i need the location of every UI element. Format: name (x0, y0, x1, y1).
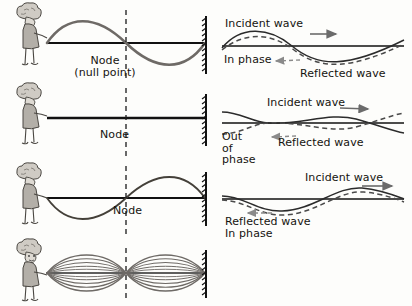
reflected-direction-arrow (276, 60, 300, 61)
node-label-panel-1: Node (null point) (63, 55, 147, 78)
phase-label-panel-2: Out of phase (222, 131, 256, 166)
wall (202, 16, 206, 74)
standing-wave-diagram: Node (null point) Incident wave In phase… (0, 0, 412, 306)
incident-wave-label-panel-1: Incident wave (225, 18, 303, 30)
panel-3-right-group (222, 186, 404, 215)
reflected-wave-label-panel-1: Reflected wave (300, 68, 386, 80)
wall (202, 94, 206, 146)
incident-wave-label-panel-3: Incident wave (305, 172, 383, 184)
incident-wave-label-panel-2: Incident wave (267, 97, 345, 109)
node-label-line-1: Node (63, 55, 147, 67)
person-figure (17, 163, 47, 224)
reflected-wave-label-panel-3: Reflected wave (225, 216, 311, 228)
person-figure (17, 83, 47, 144)
diagram-canvas (0, 0, 412, 306)
node-label-panel-2: Node (100, 129, 129, 141)
phase-label-panel-3: In phase (225, 228, 273, 240)
node-label-panel-3: Node (113, 205, 142, 217)
panel-3-left-group (17, 163, 206, 238)
person-figure (17, 3, 47, 65)
panel-2-left-group (17, 83, 206, 160)
node-label-line-2: (null point) (63, 67, 147, 79)
panel-4-left-group (17, 239, 206, 301)
person-figure (17, 239, 47, 301)
wall (202, 172, 206, 226)
phase-label-panel-1: In phase (224, 54, 272, 66)
wall (202, 250, 206, 298)
reflected-wave-label-panel-2: Reflected wave (278, 137, 364, 149)
